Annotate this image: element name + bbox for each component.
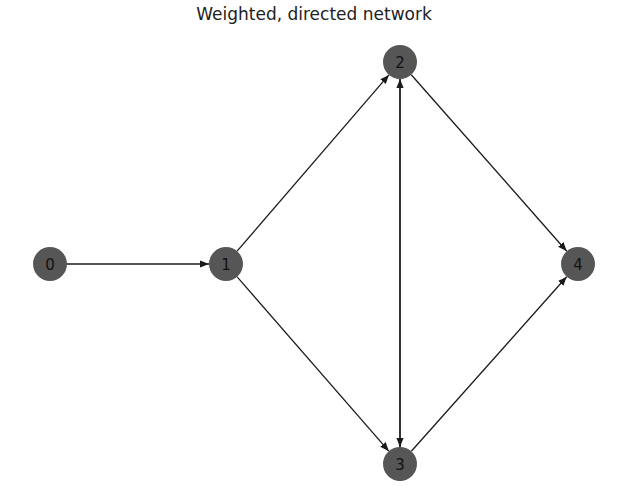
node-label: 4 xyxy=(573,256,583,274)
node-3: 3 xyxy=(383,447,417,481)
node-4: 4 xyxy=(561,247,595,281)
edge-1-to-3 xyxy=(237,277,389,451)
edge-2-to-4 xyxy=(411,75,567,251)
node-2: 2 xyxy=(383,45,417,79)
node-0: 0 xyxy=(33,247,67,281)
edge-1-to-2 xyxy=(237,75,389,251)
node-label: 1 xyxy=(221,256,231,274)
node-1: 1 xyxy=(209,247,243,281)
node-label: 3 xyxy=(395,456,405,474)
edge-3-to-4 xyxy=(411,277,566,452)
node-label: 2 xyxy=(395,54,405,72)
node-label: 0 xyxy=(45,256,55,274)
nodes-layer: 01234 xyxy=(33,45,595,481)
network-graph: 01234 xyxy=(0,0,628,490)
edges-layer xyxy=(67,75,567,452)
